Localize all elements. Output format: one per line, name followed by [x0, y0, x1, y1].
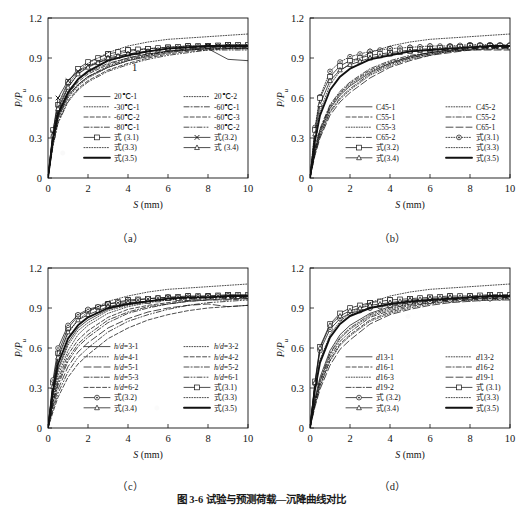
svg-text:20℃-1: 20℃-1: [114, 92, 137, 101]
plot-area-d: 00.30.60.91.20246810S (mm)P/Pud13-1d13-2…: [262, 250, 523, 478]
svg-text:式(3.4): 式(3.4): [376, 403, 399, 413]
svg-text:式 (3.2): 式 (3.2): [376, 392, 401, 402]
figure-container: 00.30.60.91.20246810S (mm)P/Pu120℃-120℃-…: [0, 0, 523, 510]
figure-caption: 图 3-6 试验与预测荷载—沉降曲线对比: [0, 491, 523, 506]
svg-text:式(3.4): 式(3.4): [114, 403, 137, 413]
svg-text:8: 8: [205, 183, 210, 194]
svg-text:0.9: 0.9: [291, 53, 304, 64]
svg-text:h/d=4-1: h/d=4-1: [114, 353, 139, 362]
svg-text:0.9: 0.9: [29, 53, 42, 64]
chart-panel-c: 00.30.60.91.20246810S (mm)P/Puh/d=3-1h/d…: [0, 250, 261, 500]
svg-text:d13-2: d13-2: [476, 353, 494, 362]
svg-text:S (mm): S (mm): [395, 449, 425, 461]
panel-label-a: （a）: [0, 230, 261, 245]
svg-text:h/d=6-1: h/d=6-1: [214, 373, 239, 382]
svg-text:10: 10: [243, 183, 254, 194]
svg-text:8: 8: [467, 433, 472, 444]
svg-text:C55-3: C55-3: [376, 123, 395, 132]
svg-text:h/d=4-2: h/d=4-2: [214, 353, 239, 362]
svg-text:C55-2: C55-2: [476, 113, 495, 122]
svg-text:0: 0: [45, 183, 50, 194]
svg-text:0.3: 0.3: [291, 383, 304, 394]
svg-text:式(3.5): 式(3.5): [476, 153, 499, 163]
svg-text:C45-2: C45-2: [476, 103, 495, 112]
svg-text:式(3.4): 式(3.4): [376, 153, 399, 163]
svg-text:1.2: 1.2: [291, 263, 304, 274]
svg-text:0.6: 0.6: [291, 343, 304, 354]
svg-text:1.2: 1.2: [291, 13, 304, 24]
svg-text:0.6: 0.6: [291, 93, 304, 104]
svg-text:d19-2: d19-2: [376, 383, 394, 392]
svg-text:-60℃-2: -60℃-2: [114, 113, 140, 122]
svg-text:8: 8: [467, 183, 472, 194]
svg-text:-80℃-2: -80℃-2: [214, 123, 240, 132]
svg-text:式 (3.4): 式 (3.4): [214, 142, 239, 152]
plot-area-c: 00.30.60.91.20246810S (mm)P/Puh/d=3-1h/d…: [0, 250, 261, 478]
svg-text:式(3.2): 式(3.2): [376, 142, 399, 152]
svg-text:0.3: 0.3: [29, 383, 42, 394]
svg-text:P/Pu: P/Pu: [13, 88, 28, 108]
svg-text:0: 0: [37, 173, 42, 184]
svg-text:4: 4: [387, 183, 393, 194]
svg-text:式 (3.1): 式 (3.1): [114, 132, 139, 142]
svg-text:6: 6: [427, 433, 432, 444]
svg-text:式(3.2): 式(3.2): [214, 132, 237, 142]
svg-text:1: 1: [132, 62, 137, 73]
svg-text:4: 4: [125, 433, 131, 444]
svg-text:0.9: 0.9: [29, 303, 42, 314]
svg-text:2: 2: [347, 433, 352, 444]
svg-text:式(3.1): 式(3.1): [476, 132, 499, 142]
svg-text:0.3: 0.3: [291, 133, 304, 144]
svg-text:d16-1: d16-1: [376, 363, 394, 372]
svg-text:6: 6: [165, 183, 170, 194]
svg-text:式(3.3): 式(3.3): [476, 392, 499, 402]
svg-text:式(3.5): 式(3.5): [214, 403, 237, 413]
svg-text:4: 4: [387, 433, 393, 444]
svg-text:式(3.5): 式(3.5): [114, 153, 137, 163]
svg-text:0.3: 0.3: [29, 133, 42, 144]
svg-text:2: 2: [347, 183, 352, 194]
chart-panel-b: 00.30.60.91.20246810S (mm)P/PuC45-1C45-2…: [262, 0, 523, 250]
svg-text:0.6: 0.6: [29, 343, 42, 354]
svg-text:S (mm): S (mm): [395, 199, 425, 211]
svg-text:h/d=3-1: h/d=3-1: [114, 342, 139, 351]
svg-text:10: 10: [505, 183, 516, 194]
svg-text:P/Pu: P/Pu: [275, 338, 290, 358]
svg-text:0: 0: [307, 183, 312, 194]
svg-text:h/d=6-2: h/d=6-2: [114, 383, 139, 392]
svg-text:C65-2: C65-2: [376, 133, 395, 142]
svg-text:S (mm): S (mm): [133, 449, 163, 461]
svg-text:10: 10: [243, 433, 254, 444]
svg-text:d13-1: d13-1: [376, 353, 394, 362]
svg-text:2: 2: [85, 433, 90, 444]
svg-text:C55-1: C55-1: [376, 113, 395, 122]
svg-text:10: 10: [505, 433, 516, 444]
svg-text:1.2: 1.2: [29, 263, 42, 274]
svg-text:-60℃-3: -60℃-3: [214, 113, 240, 122]
svg-text:C65-1: C65-1: [476, 123, 495, 132]
svg-text:4: 4: [125, 183, 131, 194]
svg-text:0: 0: [37, 423, 42, 434]
svg-text:0: 0: [45, 433, 50, 444]
svg-text:0: 0: [307, 433, 312, 444]
svg-text:0: 0: [299, 173, 304, 184]
svg-text:式(3.1): 式(3.1): [214, 382, 237, 392]
svg-text:式(3.3): 式(3.3): [476, 142, 499, 152]
svg-text:C45-1: C45-1: [376, 103, 395, 112]
svg-text:式(3.2): 式(3.2): [114, 392, 137, 402]
svg-text:P/Pu: P/Pu: [275, 88, 290, 108]
svg-text:式(3.3): 式(3.3): [214, 392, 237, 402]
svg-text:式(3.3): 式(3.3): [114, 142, 137, 152]
svg-text:P/Pu: P/Pu: [13, 338, 28, 358]
svg-text:S (mm): S (mm): [133, 199, 163, 211]
svg-text:式(3.5): 式(3.5): [476, 403, 499, 413]
svg-text:1.2: 1.2: [29, 13, 42, 24]
svg-text:d19-1: d19-1: [476, 373, 494, 382]
svg-text:式 (3.1): 式 (3.1): [476, 382, 501, 392]
svg-text:h/d=3-2: h/d=3-2: [214, 342, 239, 351]
svg-text:2: 2: [85, 183, 90, 194]
svg-text:-80℃-1: -80℃-1: [114, 123, 140, 132]
svg-text:0.9: 0.9: [291, 303, 304, 314]
svg-text:d16-2: d16-2: [476, 363, 494, 372]
svg-text:20℃-2: 20℃-2: [214, 92, 237, 101]
